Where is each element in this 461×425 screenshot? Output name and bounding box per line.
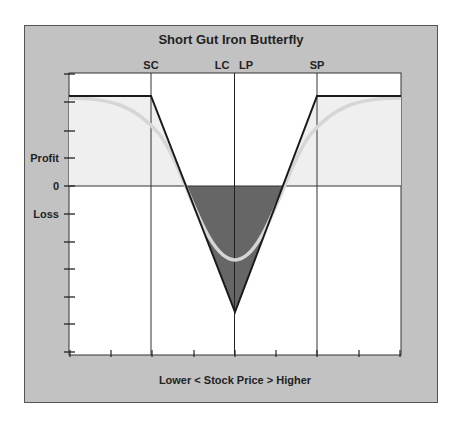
- strike-label-sp: SP: [310, 59, 325, 71]
- x-axis-label: Lower < Stock Price > Higher: [159, 374, 312, 386]
- y-label-loss: Loss: [33, 208, 59, 220]
- strike-label-lc: LC: [215, 59, 230, 71]
- y-label-zero: 0: [53, 180, 59, 192]
- strike-label-sc: SC: [143, 59, 158, 71]
- chart-title: Short Gut Iron Butterfly: [158, 32, 304, 47]
- strike-label-lp: LP: [239, 59, 253, 71]
- y-label-profit: Profit: [30, 152, 59, 164]
- payoff-chart: Short Gut Iron Butterfly SC LC LP SP: [0, 0, 461, 425]
